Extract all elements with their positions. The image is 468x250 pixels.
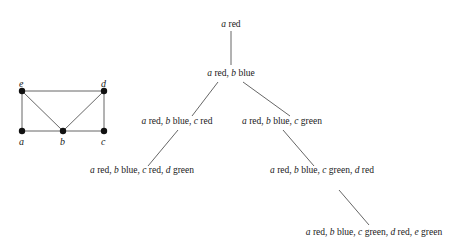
graph-edges — [22, 91, 104, 131]
tree-node-n3: a red, b blue, c red — [142, 116, 213, 126]
graph-vertex-label-b: b — [60, 136, 65, 147]
graph-vertex-label-a: a — [19, 136, 24, 147]
tree-edge-n3-n5 — [148, 130, 178, 166]
tree-edge-n2-n4 — [243, 82, 290, 116]
graph-vertex-c — [101, 128, 107, 134]
graph-vertex-a — [19, 128, 25, 134]
tree-node-n1: a red — [221, 19, 241, 29]
tree-edge-n4-n6 — [283, 130, 314, 166]
graph-vertex-label-e: e — [19, 78, 24, 89]
tree-nodes: a reda red, b bluea red, b blue, c reda … — [90, 19, 442, 237]
tree-node-n7: a red, b blue, c green, d red, e green — [306, 227, 443, 237]
graph-vertex-label-d: d — [101, 78, 107, 89]
diagram-canvas: edabc a reda red, b bluea red, b blue, c… — [0, 0, 468, 250]
tree-node-n2: a red, b blue — [207, 68, 255, 78]
tree-edge-n6-n7 — [339, 190, 369, 225]
tree-node-n4: a red, b blue, c green — [242, 116, 322, 126]
graph-edge-d-b — [63, 91, 104, 131]
tree-edges — [148, 31, 369, 225]
graph-nodes: edabc — [19, 78, 107, 147]
graph-vertex-b — [60, 128, 66, 134]
graph-vertex-label-c: c — [101, 136, 106, 147]
tree-node-n5: a red, b blue, c red, d green — [90, 165, 194, 175]
tree-edge-n2-n3 — [192, 82, 218, 116]
tree-node-n6: a red, b blue, c green, d red — [270, 165, 374, 175]
graph-edge-e-b — [22, 91, 63, 131]
